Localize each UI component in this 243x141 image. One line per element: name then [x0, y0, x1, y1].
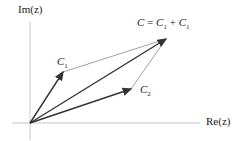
parallelogram-edge-right	[131, 39, 166, 89]
c2-subscript: 2	[147, 90, 151, 98]
c1-label: C1	[57, 55, 68, 70]
imag-axis-label: Im(z)	[18, 3, 42, 15]
vector-sum	[30, 39, 166, 123]
vector-c2	[30, 89, 131, 123]
c1-subscript: 1	[64, 62, 68, 70]
c2-label: C2	[140, 83, 151, 98]
sum-term2: C	[179, 16, 186, 28]
sum-equation-label: C = C1 + C1	[137, 16, 189, 31]
sum-term2-subscript: 1	[186, 23, 190, 31]
parallelogram-edge-top	[63, 39, 166, 72]
plus-sign: +	[167, 16, 179, 28]
vector-c1	[30, 72, 63, 123]
real-axis-label: Re(z)	[206, 115, 230, 127]
equals-sign: =	[144, 16, 156, 28]
